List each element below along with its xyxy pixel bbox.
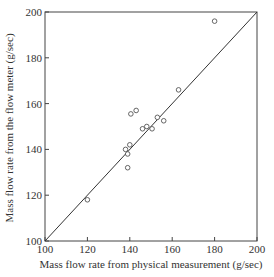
data-point	[212, 19, 217, 24]
data-point	[150, 126, 155, 131]
data-point	[155, 115, 160, 120]
data-point	[125, 152, 130, 157]
data-point	[161, 118, 166, 123]
data-point	[123, 147, 128, 152]
data-point	[128, 143, 133, 148]
y-tick-label: 200	[26, 6, 43, 18]
y-tick-label: 120	[26, 189, 43, 201]
y-tick-label: 100	[26, 235, 43, 247]
data-points	[85, 19, 217, 202]
y-axis-title: Mass flow rate from the flow meter (g/se…	[3, 33, 16, 222]
axis-ticks: 100120140160180200100120140160180200	[26, 6, 266, 255]
y-tick-label: 160	[26, 98, 43, 110]
data-point	[85, 197, 90, 202]
x-tick-label: 180	[206, 243, 223, 255]
x-tick-label: 120	[79, 243, 96, 255]
x-axis-title: Mass flow rate from physical measurement…	[40, 258, 263, 271]
scatter-chart: 100120140160180200100120140160180200 Mas…	[0, 0, 274, 277]
data-point	[129, 112, 134, 117]
data-point	[144, 124, 149, 129]
x-tick-label: 200	[249, 243, 266, 255]
y-tick-label: 180	[26, 52, 43, 64]
data-point	[125, 165, 130, 170]
x-tick-label: 160	[164, 243, 181, 255]
y-tick-label: 140	[26, 143, 43, 155]
data-point	[176, 88, 181, 93]
data-point	[134, 108, 139, 113]
x-tick-label: 140	[122, 243, 139, 255]
